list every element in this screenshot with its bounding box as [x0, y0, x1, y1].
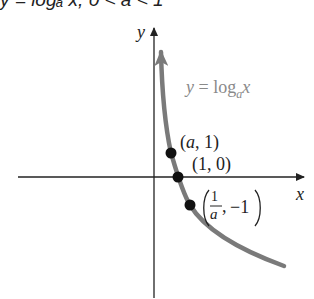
point-label-inv-a-neg1: 1 a , −1 [204, 189, 261, 226]
curve-label: y = logax [184, 77, 250, 101]
point-a-1 [166, 148, 177, 159]
point-1-0 [173, 172, 184, 183]
svg-text:−1: −1 [230, 197, 249, 217]
log-graph: y x y = logax (a, 1) (1, 0) 1 a , −1 [0, 0, 314, 299]
point-label-a-1: (a, 1) [180, 132, 219, 153]
point-label-1-0: (1, 0) [192, 154, 231, 175]
point-inv-a-neg1 [185, 200, 196, 211]
x-axis-label: x [295, 184, 304, 204]
svg-text:,: , [222, 196, 227, 216]
svg-text:a: a [210, 206, 218, 222]
svg-text:1: 1 [211, 189, 218, 204]
y-axis-label: y [135, 22, 145, 42]
